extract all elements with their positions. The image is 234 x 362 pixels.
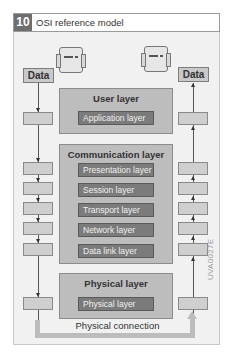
arrow-down-icon — [36, 218, 40, 222]
left-stack-transport — [23, 202, 53, 215]
figure-number: 10 — [14, 14, 32, 31]
right-stack-network — [178, 222, 208, 235]
control-unit-icon — [59, 47, 83, 73]
left-stack-presentation — [23, 162, 53, 175]
physical-connection-label: Physical connection — [60, 320, 175, 331]
arrow-down-icon — [36, 108, 40, 112]
left-stack-network — [23, 222, 53, 235]
arrow-down-icon — [36, 158, 40, 162]
figure-title-bar: 10 OSI reference model — [13, 13, 220, 32]
right-stack-presentation — [178, 162, 208, 175]
arrow-up-icon — [191, 236, 195, 240]
connection-right-riser — [190, 318, 195, 338]
left-stack-session — [23, 182, 53, 195]
arrow-down-icon — [36, 178, 40, 182]
left-stack-application — [23, 112, 53, 125]
left-stack-physical — [23, 297, 53, 310]
data-link-layer: Data link layer — [78, 244, 154, 258]
application-layer: Application layer — [78, 111, 154, 125]
right-stack-session — [178, 182, 208, 195]
group-title: Communication layer — [60, 149, 172, 160]
physical-layer-group: Physical layer Physical layer — [59, 273, 173, 319]
arrow-up-icon — [191, 196, 195, 200]
arrow-down-icon — [36, 198, 40, 202]
arrow-up-icon — [191, 257, 195, 261]
user-layer-group: User layer Application layer — [59, 88, 173, 134]
connection-bar — [35, 333, 193, 338]
data-box-left: Data — [23, 68, 54, 83]
arrow-up-icon — [191, 126, 195, 130]
arrow-down-icon — [36, 293, 40, 297]
arrow-up-icon — [191, 176, 195, 180]
group-title: User layer — [60, 93, 172, 104]
control-unit-icon — [144, 46, 168, 72]
connection-arrow-icon — [187, 311, 197, 319]
physical-layer: Physical layer — [78, 297, 154, 311]
arrow-down-icon — [36, 239, 40, 243]
presentation-layer: Presentation layer — [78, 163, 154, 177]
transport-layer: Transport layer — [78, 203, 154, 217]
session-layer: Session layer — [78, 183, 154, 197]
network-layer: Network layer — [78, 223, 154, 237]
right-stack-physical — [178, 297, 208, 310]
figure-title: OSI reference model — [36, 14, 124, 31]
arrow-up-icon — [191, 83, 195, 87]
data-box-right: Data — [178, 67, 209, 82]
group-title: Physical layer — [60, 278, 172, 289]
left-stack-datalink — [23, 243, 53, 256]
communication-layer-group: Communication layer Presentation layer S… — [59, 144, 173, 264]
arrow-up-icon — [191, 216, 195, 220]
figure-code: UVA0027E — [206, 239, 215, 280]
right-stack-datalink — [178, 243, 208, 256]
right-stack-application — [178, 112, 208, 125]
right-stack-transport — [178, 202, 208, 215]
